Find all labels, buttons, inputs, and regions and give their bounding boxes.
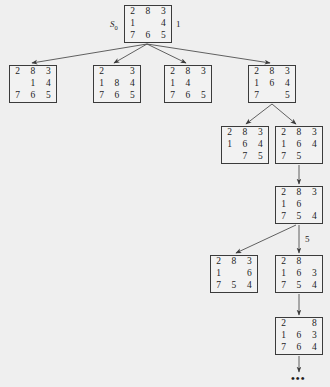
cell-0-0: 2 <box>125 6 140 18</box>
cell-2-1: 6 <box>291 342 306 354</box>
cell-1-1: 4 <box>180 78 195 90</box>
cell-2-1: 5 <box>291 151 306 163</box>
cell-2-1: 5 <box>291 211 306 223</box>
cell-1-1 <box>140 18 155 30</box>
cell-2-0: 7 <box>211 280 226 292</box>
cell-1-1: 6 <box>291 199 306 211</box>
cell-1-2: 4 <box>41 78 56 90</box>
cell-2-2: 5 <box>280 90 295 102</box>
cell-0-1: 8 <box>264 66 279 78</box>
cell-1-2 <box>307 199 322 211</box>
cell-0-1 <box>291 318 306 330</box>
cell-2-0: 7 <box>10 90 25 102</box>
cell-2-1 <box>264 90 279 102</box>
cell-0-2: 8 <box>307 318 322 330</box>
cell-0-0: 2 <box>222 127 237 139</box>
cell-1-0: 1 <box>222 139 237 151</box>
edge-root-to-child3 <box>147 44 186 63</box>
level3-state-right: 2 8 3 1 6 4 7 5 <box>275 126 323 164</box>
cell-2-1: 5 <box>226 280 241 292</box>
cell-1-2: 4 <box>253 139 268 151</box>
child-state-4: 2 8 3 1 6 4 7 5 <box>248 65 296 103</box>
cell-1-0: 1 <box>125 18 140 30</box>
cell-2-2: 4 <box>242 280 257 292</box>
cell-1-1: 8 <box>109 78 124 90</box>
cell-0-1: 8 <box>291 187 306 199</box>
cell-1-2: 4 <box>156 18 171 30</box>
cell-1-0: 1 <box>276 139 291 151</box>
cell-2-2: 5 <box>41 90 56 102</box>
cell-2-0: 7 <box>165 90 180 102</box>
cell-0-1: 8 <box>140 6 155 18</box>
cell-1-0: 1 <box>165 78 180 90</box>
cell-1-1: 6 <box>264 78 279 90</box>
cell-2-0: 7 <box>249 90 264 102</box>
cell-0-2: 3 <box>125 66 140 78</box>
cell-2-1: 7 <box>237 151 252 163</box>
cell-1-0 <box>10 78 25 90</box>
root-cost-label: 1 <box>176 19 181 29</box>
cell-2-1: 6 <box>109 90 124 102</box>
cell-2-1: 6 <box>25 90 40 102</box>
cell-1-0: 1 <box>276 330 291 342</box>
cell-0-2: 3 <box>307 127 322 139</box>
edge-cost-label: 5 <box>305 234 310 244</box>
cell-2-0: 7 <box>125 30 140 42</box>
cell-0-1 <box>109 66 124 78</box>
cell-2-0: 7 <box>276 211 291 223</box>
cell-1-2: 3 <box>307 330 322 342</box>
cell-2-2: 4 <box>307 211 322 223</box>
cell-2-2: 5 <box>156 30 171 42</box>
cell-1-0: 1 <box>94 78 109 90</box>
cell-2-0: 7 <box>276 280 291 292</box>
cell-0-2: 3 <box>196 66 211 78</box>
cell-0-2: 3 <box>41 66 56 78</box>
cell-2-0: 7 <box>276 151 291 163</box>
cell-1-2: 4 <box>307 139 322 151</box>
root-label-subscript: 0 <box>115 24 118 31</box>
cell-0-2 <box>307 256 322 268</box>
continuation-dots: ••• <box>291 373 306 384</box>
cell-2-0: 7 <box>94 90 109 102</box>
cell-0-1: 8 <box>25 66 40 78</box>
cell-0-0: 2 <box>276 256 291 268</box>
cell-2-1: 6 <box>180 90 195 102</box>
cell-0-0: 2 <box>94 66 109 78</box>
cell-1-0: 1 <box>276 268 291 280</box>
cell-0-2: 3 <box>307 187 322 199</box>
edge-child4-to-level3-left <box>246 104 272 124</box>
cell-1-0: 1 <box>211 268 226 280</box>
cell-2-2: 4 <box>307 280 322 292</box>
cell-0-2: 3 <box>242 256 257 268</box>
cell-0-2: 3 <box>156 6 171 18</box>
cell-2-1: 5 <box>291 280 306 292</box>
cell-2-2: 5 <box>253 151 268 163</box>
edge-root-to-child4 <box>147 44 270 63</box>
edge-level4-to-level5-left <box>236 225 296 253</box>
cell-1-2: 3 <box>307 268 322 280</box>
child-state-1: 2 8 3 1 4 7 6 5 <box>9 65 57 103</box>
cell-0-1: 8 <box>180 66 195 78</box>
cell-0-2: 3 <box>280 66 295 78</box>
edge-root-to-child2 <box>114 44 147 63</box>
cell-2-2: 5 <box>125 90 140 102</box>
cell-0-0: 2 <box>211 256 226 268</box>
cell-2-1: 6 <box>140 30 155 42</box>
root-node-label: S0 <box>110 19 118 31</box>
edge-child4-to-level3-right <box>272 104 296 124</box>
cell-1-2: 6 <box>242 268 257 280</box>
cell-0-1: 8 <box>291 256 306 268</box>
cell-1-1: 6 <box>291 139 306 151</box>
cell-2-0: 7 <box>276 342 291 354</box>
cell-1-2: 4 <box>280 78 295 90</box>
cell-0-1: 8 <box>226 256 241 268</box>
cell-0-0: 2 <box>276 127 291 139</box>
cell-2-2: 4 <box>307 342 322 354</box>
level5-state-left: 2 8 3 1 6 7 5 4 <box>210 255 258 293</box>
child-state-2: 2 3 1 8 4 7 6 5 <box>93 65 141 103</box>
cell-1-1: 6 <box>237 139 252 151</box>
cell-1-0: 1 <box>276 199 291 211</box>
child-state-3: 2 8 3 1 4 7 6 5 <box>164 65 212 103</box>
cell-0-2: 3 <box>253 127 268 139</box>
cell-1-1: 1 <box>25 78 40 90</box>
